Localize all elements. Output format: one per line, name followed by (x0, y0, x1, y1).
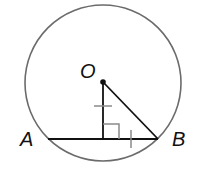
center-point (100, 79, 106, 85)
right-angle-mark (103, 124, 119, 139)
circle-diagram: O A B (0, 0, 202, 182)
label-o: O (80, 60, 96, 82)
label-b: B (172, 128, 185, 150)
label-a: A (19, 128, 33, 150)
